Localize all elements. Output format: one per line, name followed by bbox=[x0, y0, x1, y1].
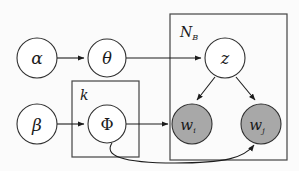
diagram-canvas: NB k α bbox=[0, 0, 299, 171]
node-z-label: z bbox=[220, 49, 230, 68]
graphical-model-diagram: NB k α bbox=[0, 0, 299, 171]
node-wj: wj bbox=[241, 104, 281, 144]
edge-z-to-wi bbox=[197, 77, 215, 100]
node-phi: Φ bbox=[88, 105, 126, 143]
node-alpha-label: α bbox=[31, 48, 43, 68]
node-beta: β bbox=[17, 104, 57, 144]
node-z: z bbox=[205, 38, 245, 78]
node-alpha: α bbox=[17, 38, 57, 78]
plate-nb-label: NB bbox=[179, 24, 198, 42]
node-beta-label: β bbox=[31, 115, 42, 135]
node-phi-label: Φ bbox=[100, 115, 113, 134]
edge-z-to-wj bbox=[236, 77, 255, 100]
node-theta: θ bbox=[88, 39, 126, 77]
node-theta-label: θ bbox=[102, 49, 112, 68]
plate-k-label: k bbox=[80, 87, 88, 103]
node-wi: wi bbox=[172, 104, 212, 144]
